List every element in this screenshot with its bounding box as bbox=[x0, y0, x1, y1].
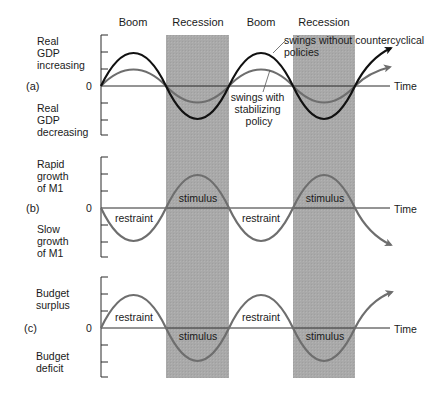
panel-b-region-restraint-1: restraint bbox=[115, 212, 153, 224]
panel-b-region-stimulus-1: stimulus bbox=[179, 192, 218, 204]
panel-a-zero-label: 0 bbox=[86, 80, 92, 92]
phase-headers: Boom Recession Boom Recession bbox=[119, 16, 350, 28]
panel-b-zero-label: 0 bbox=[86, 202, 92, 214]
annotation-swings-with: swings with stabilizing policy bbox=[231, 91, 288, 127]
countercyclical-policy-diagram: Boom Recession Boom Recession Time 0 (a)… bbox=[0, 0, 448, 401]
phase-recession-1: Recession bbox=[172, 16, 223, 28]
panel-c-tag: (c) bbox=[24, 322, 37, 334]
panel-b-region-restraint-2: restraint bbox=[242, 212, 280, 224]
panel-b-lower-label: Slow growth of M1 bbox=[37, 223, 71, 259]
phase-boom-2: Boom bbox=[247, 16, 276, 28]
panel-b-upper-label: Rapid growth of M1 bbox=[37, 158, 71, 194]
panel-a-upper-label: Real GDP increasing bbox=[37, 35, 85, 71]
panel-a-time-label: Time bbox=[394, 80, 417, 92]
panel-a-tag: (a) bbox=[26, 80, 39, 92]
phase-recession-2: Recession bbox=[298, 16, 349, 28]
panel-a-lower-label: Real GDP decreasing bbox=[37, 102, 89, 138]
panel-b-time-label: Time bbox=[394, 203, 417, 215]
panel-c-zero-label: 0 bbox=[86, 322, 92, 334]
annotation-swings-without: swings without countercyclical policies bbox=[284, 34, 427, 58]
panel-b-tag: (b) bbox=[26, 202, 39, 214]
panel-c-region-restraint-2: restraint bbox=[242, 311, 280, 323]
panel-c-upper-label: Budget surplus bbox=[36, 287, 72, 311]
panel-b-y-axis bbox=[101, 157, 108, 257]
panel-c-time-label: Time bbox=[394, 323, 417, 335]
panel-c-region-stimulus-1: stimulus bbox=[179, 330, 218, 342]
phase-boom-1: Boom bbox=[119, 16, 148, 28]
panel-c-region-stimulus-2: stimulus bbox=[306, 330, 345, 342]
leader-line-with bbox=[263, 70, 270, 92]
panel-b-region-stimulus-2: stimulus bbox=[306, 192, 345, 204]
panel-c-lower-label: Budget deficit bbox=[36, 350, 72, 374]
panel-c-region-restraint-1: restraint bbox=[115, 311, 153, 323]
